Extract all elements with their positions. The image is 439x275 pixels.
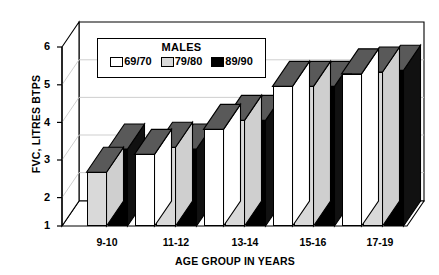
legend-item-69-70: 69/70 <box>110 56 152 67</box>
x-tick-label-13-14: 13-14 <box>210 237 280 248</box>
x-axis-title: AGE GROUP IN YEARS <box>70 255 400 267</box>
legend-swatch-89-90 <box>211 57 224 67</box>
x-tick-label-17-19: 17-19 <box>345 237 415 248</box>
legend-label-79-80: 79/80 <box>175 56 203 67</box>
legend-title: MALES <box>98 41 265 53</box>
y-tick-label-1: 1 <box>32 220 50 231</box>
bar-17-19-69-70 <box>342 74 362 226</box>
x-tick-label-15-16: 15-16 <box>278 237 348 248</box>
legend-item-79-80: 79/80 <box>161 56 203 67</box>
chart-legend: MALES 69/70 79/80 89/90 <box>97 38 266 78</box>
legend-swatch-79-80 <box>161 57 174 67</box>
legend-entries: 69/70 79/80 89/90 <box>98 56 265 67</box>
legend-swatch-69-70 <box>110 57 123 67</box>
legend-label-89-90: 89/90 <box>225 56 253 67</box>
y-axis-title: FVC, LITRES BTPS <box>30 44 42 204</box>
legend-label-69-70: 69/70 <box>124 56 152 67</box>
x-tick-label-11-12: 11-12 <box>141 237 211 248</box>
chart-figure: 6 5 4 3 2 1 9-10 11-12 13-14 15-16 17-19… <box>0 0 439 275</box>
legend-item-89-90: 89/90 <box>211 56 253 67</box>
x-tick-label-9-10: 9-10 <box>72 237 142 248</box>
